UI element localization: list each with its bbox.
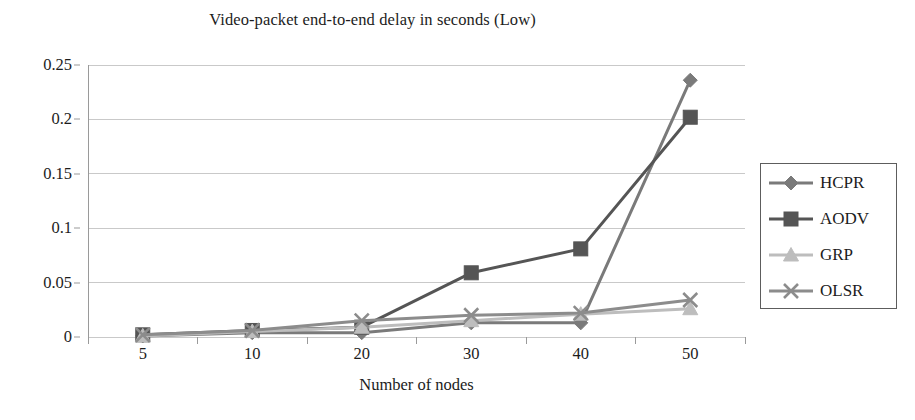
y-tick-label: 0.25 (43, 55, 72, 75)
x-tick-label: 10 (244, 344, 261, 364)
series-line (143, 80, 691, 336)
legend-label: GRP (820, 245, 853, 265)
legend-key-diamond-icon (768, 172, 814, 194)
legend-key-x-icon (768, 280, 814, 302)
y-tick-label: 0.15 (43, 164, 72, 184)
y-tick-mark (74, 119, 80, 120)
legend-label: HCPR (820, 173, 864, 193)
y-tick-label: 0.05 (43, 273, 72, 293)
x-tick-label: 40 (573, 344, 590, 364)
data-point-marker (784, 176, 798, 190)
x-axis-title: Number of nodes (88, 375, 745, 395)
legend-key-square-icon (768, 208, 814, 230)
chart-title: Video-packet end-to-end delay in seconds… (0, 10, 745, 30)
chart-legend: HCPRAODVGRPOLSR (760, 163, 897, 309)
y-tick-mark (74, 228, 80, 229)
data-point-marker (784, 212, 798, 226)
plot-area (88, 65, 745, 337)
y-tick-label: 0 (64, 327, 72, 347)
legend-label: OLSR (820, 281, 863, 301)
legend-key-triangle-icon (768, 244, 814, 266)
legend-item-olsr[interactable]: OLSR (761, 273, 898, 309)
y-tick-mark (74, 65, 80, 66)
series-aodv (136, 110, 698, 342)
y-tick-mark (74, 173, 80, 174)
y-axis: 00.050.10.150.20.25 (8, 65, 80, 337)
x-tick-label: 20 (354, 344, 371, 364)
legend-item-hcpr[interactable]: HCPR (761, 165, 898, 201)
x-axis: 51020304050 (88, 344, 745, 370)
y-tick-label: 0.2 (51, 109, 72, 129)
legend-item-aodv[interactable]: AODV (761, 201, 898, 237)
series-line (143, 300, 691, 335)
series-line (143, 117, 691, 335)
legend-label: AODV (820, 209, 869, 229)
x-tick-label: 50 (682, 344, 699, 364)
y-tick-mark (74, 337, 80, 338)
data-point-marker (683, 73, 697, 87)
y-tick-mark (74, 282, 80, 283)
series-grp (135, 301, 698, 342)
legend-item-grp[interactable]: GRP (761, 237, 898, 273)
x-tick-label: 30 (463, 344, 480, 364)
data-point-marker (464, 266, 478, 280)
data-point-marker (574, 242, 588, 256)
data-point-marker (683, 110, 697, 124)
chart-container: Video-packet end-to-end delay in seconds… (0, 0, 915, 420)
y-tick-label: 0.1 (51, 218, 72, 238)
plot-svg (88, 65, 745, 337)
x-tick-label: 5 (139, 344, 147, 364)
